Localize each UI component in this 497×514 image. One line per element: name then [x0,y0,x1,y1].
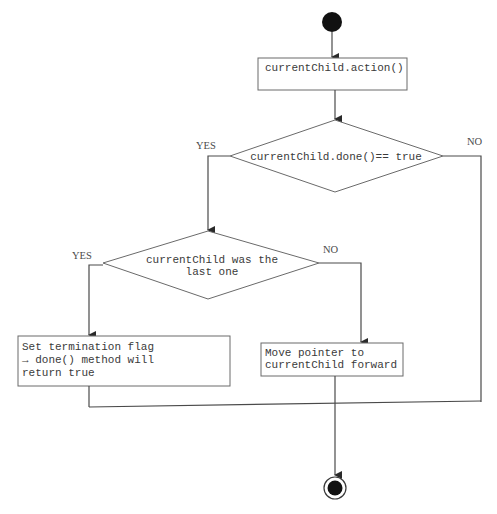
decision-done-yes-label: YES [196,140,216,151]
decision-last: currentChild was the last one [103,231,319,299]
decision-last-text-line2: last one [186,266,239,278]
action-box: currentChild.action() [258,58,407,90]
edge-decision-done-no [443,156,481,402]
edge-decision-done-yes [208,156,230,230]
set-flag-line3: return true [22,367,95,379]
final-node-icon [324,477,346,499]
action-text: currentChild.action() [265,62,404,74]
decision-done-text: currentChild.done()== true [250,151,422,163]
decision-done-no-label: NO [467,136,483,147]
move-pointer-line1: Move pointer to [265,347,364,359]
flowchart-canvas: currentChild.action() currentChild.done(… [0,0,497,514]
decision-last-text-line1: currentChild was the [146,254,278,266]
set-flag-line1: Set termination flag [22,341,154,353]
edge-decision-last-no [319,263,361,342]
set-flag-box: Set termination flag → done() method wil… [18,336,230,386]
decision-last-yes-label: YES [72,250,92,261]
edge-decision-last-yes [89,265,103,335]
start-node-icon [322,12,342,32]
move-pointer-box: Move pointer to currentChild forward [261,343,403,376]
move-pointer-line2: currentChild forward [265,359,397,371]
edge-merge-line [89,401,481,407]
decision-last-no-label: NO [323,244,339,255]
decision-done: currentChild.done()== true [230,120,443,192]
set-flag-line2: → done() method will [22,354,154,366]
